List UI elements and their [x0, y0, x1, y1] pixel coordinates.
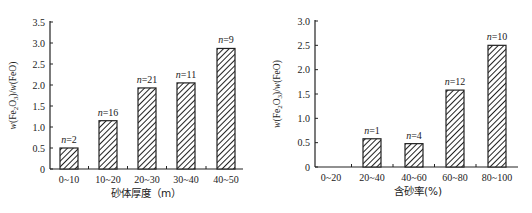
- bar: [217, 48, 235, 169]
- bar: [446, 90, 464, 167]
- y-tick-label: 3.0: [298, 16, 311, 27]
- x-axis-title: 砂体厚度（m）: [111, 187, 181, 199]
- y-tick-label: 2.0: [33, 80, 46, 91]
- sample-count-label: n=4: [406, 130, 422, 141]
- bar: [99, 121, 117, 169]
- x-category-label: 40~50: [213, 174, 238, 185]
- bar: [138, 88, 156, 169]
- y-tick-label: 0.5: [33, 143, 46, 154]
- sample-count-label: n=10: [487, 31, 508, 42]
- sample-count-label: n=1: [364, 125, 380, 136]
- sample-count-label: n=16: [98, 107, 119, 118]
- x-category-label: 20~30: [134, 174, 159, 185]
- bar: [60, 148, 78, 169]
- x-category-label: 80~100: [482, 172, 512, 183]
- x-category-label: 60~80: [442, 172, 467, 183]
- x-category-label: 0~10: [59, 174, 79, 185]
- sample-count-label: n=21: [137, 74, 158, 85]
- sample-count-label: n=9: [218, 34, 234, 45]
- y-tick-label: 0: [40, 164, 45, 175]
- sample-count-label: n=2: [61, 134, 77, 145]
- sample-count-label: n=11: [176, 69, 196, 80]
- y-tick-label: 2.5: [298, 40, 311, 51]
- bar: [177, 83, 195, 169]
- chart-sand-ratio: 00.51.01.52.02.53.00~20n=120~40n=440~60n…: [272, 16, 518, 198]
- chart-sand-thickness: 00.51.01.52.02.53.03.5n=20~10n=1610~20n=…: [8, 17, 243, 200]
- x-category-label: 20~40: [359, 172, 384, 183]
- y-axis-title: w(Fe2O3)/w(FeO): [272, 60, 284, 128]
- y-tick-label: 3.5: [33, 17, 46, 28]
- x-axis-title: 含砂率(%): [394, 185, 442, 197]
- x-category-label: 30~40: [173, 174, 198, 185]
- y-axis-title: w(Fe2O3)/w(FeO): [8, 62, 20, 130]
- y-tick-label: 1.0: [298, 113, 311, 124]
- charts-canvas: 00.51.01.52.02.53.03.5n=20~10n=1610~20n=…: [0, 0, 532, 213]
- y-tick-label: 0: [305, 162, 310, 173]
- x-category-label: 10~20: [95, 174, 120, 185]
- y-tick-label: 3.0: [33, 38, 46, 49]
- y-tick-label: 1.0: [33, 122, 46, 133]
- x-category-label: 0~20: [321, 172, 341, 183]
- bar: [363, 139, 381, 167]
- y-tick-label: 1.5: [33, 101, 46, 112]
- x-category-label: 40~60: [401, 172, 426, 183]
- y-tick-label: 2.5: [33, 59, 46, 70]
- y-tick-label: 2.0: [298, 64, 311, 75]
- y-tick-label: 0.5: [298, 137, 311, 148]
- y-tick-label: 1.5: [298, 89, 311, 100]
- bar: [405, 144, 423, 167]
- sample-count-label: n=12: [445, 76, 466, 87]
- bar: [488, 45, 506, 167]
